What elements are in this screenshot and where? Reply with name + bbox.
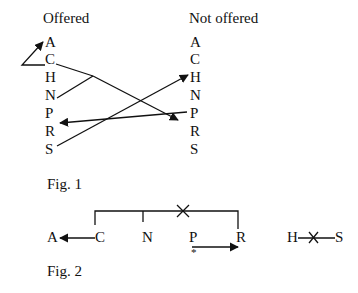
diagram-lines [0, 0, 358, 293]
arrow-c-to-a [22, 42, 45, 65]
line-n-to-junction [57, 76, 93, 98]
arrow-p-to-r [60, 112, 187, 123]
line-c-to-junction [56, 64, 93, 76]
fig2-bracket [95, 211, 238, 229]
